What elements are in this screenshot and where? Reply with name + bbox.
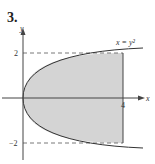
y-tick-2: 2 bbox=[14, 49, 18, 58]
parabola-region-chart: y x 2 −2 4 x = y² bbox=[0, 0, 155, 164]
y-axis-label: y bbox=[19, 24, 24, 33]
x-axis-label: x bbox=[145, 94, 150, 103]
x-tick-4: 4 bbox=[121, 101, 125, 110]
y-tick-neg2: −2 bbox=[9, 139, 18, 148]
x-axis-arrow-icon bbox=[138, 96, 145, 101]
curve-label: x = y² bbox=[115, 38, 136, 47]
